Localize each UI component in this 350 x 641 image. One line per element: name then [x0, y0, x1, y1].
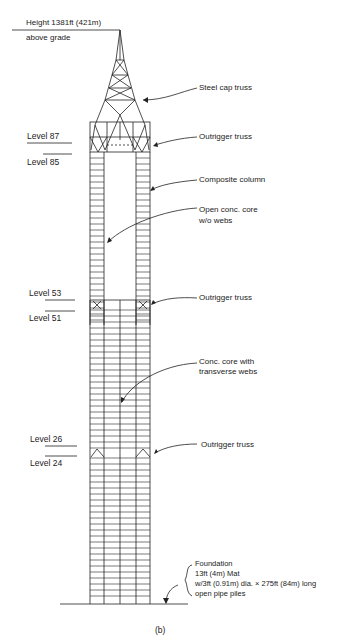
composite-column-left: [90, 152, 104, 325]
open-core-label-1: Open conc. core: [199, 205, 258, 215]
lower-core: [90, 300, 150, 604]
level-85-label: Level 85: [27, 157, 59, 167]
level-87-label: Level 87: [27, 131, 59, 141]
foundation-label-1: Foundation: [195, 559, 233, 569]
composite-column-right: [136, 152, 150, 325]
level-53-label: Level 53: [29, 288, 61, 298]
outrigger-truss-top-label: Outrigger truss: [199, 132, 252, 142]
steel-cap-truss-label: Steel cap truss: [199, 83, 252, 93]
conc-core-label-1: Conc. core with: [199, 357, 254, 367]
outrigger-truss-mid-label: Outrigger truss: [199, 293, 252, 303]
height-label: Height 1381ft (421m): [26, 18, 101, 28]
composite-column-label: Composite column: [199, 175, 265, 185]
conc-core-label-2: transverse webs: [199, 367, 257, 377]
foundation-label-2: 13ft (4m) Mat: [195, 569, 240, 579]
upper-floor-lines: [90, 158, 150, 320]
level-51-label: Level 51: [29, 313, 61, 323]
outrigger-truss-low-label: Outrigger truss: [201, 440, 254, 450]
level-26-label: Level 26: [30, 434, 62, 444]
level-24-label: Level 24: [30, 458, 62, 468]
open-core-label-2: w/o webs: [199, 216, 232, 226]
above-grade-label: above grade: [26, 33, 70, 43]
foundation-label-4: open pipe piles: [195, 589, 245, 599]
figure-caption: (b): [155, 625, 165, 635]
leader-arrows: [108, 88, 197, 603]
steel-cap-truss: [90, 30, 150, 152]
foundation-label-3: w/3ft (0.91m) dia. × 275ft (84m) long: [195, 579, 316, 589]
arrowheads: [107, 97, 169, 604]
